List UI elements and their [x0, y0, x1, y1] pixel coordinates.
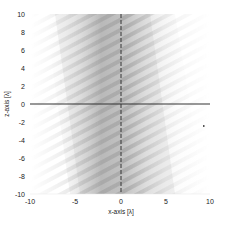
- y-tick: 10: [17, 11, 25, 18]
- x-tick: 10: [206, 198, 214, 205]
- marker-point: [203, 125, 205, 127]
- x-axis-label: x-axis [λ]: [108, 208, 134, 216]
- y-tick: 4: [21, 65, 25, 72]
- chart-figure: 10 8 6 4 2 0 -2 -4 -6 -8 -10 z-axis [λ] …: [0, 0, 226, 225]
- y-tick: -8: [19, 173, 25, 180]
- y-tick: 6: [21, 47, 25, 54]
- y-tick: -4: [19, 137, 25, 144]
- y-axis: 10 8 6 4 2 0 -2 -4 -6 -8 -10 z-axis [λ]: [3, 11, 25, 198]
- y-axis-label: z-axis [λ]: [3, 91, 11, 117]
- x-axis: -10 -5 0 5 10 x-axis [λ]: [25, 194, 214, 216]
- y-tick: -2: [19, 119, 25, 126]
- y-tick: -10: [15, 191, 25, 198]
- x-tick: 5: [164, 198, 168, 205]
- x-tick: -5: [72, 198, 78, 205]
- x-tick: 0: [119, 198, 123, 205]
- y-tick: -6: [19, 155, 25, 162]
- x-tick: -10: [25, 198, 35, 205]
- y-tick: 0: [21, 101, 25, 108]
- y-tick: 2: [21, 83, 25, 90]
- y-tick: 8: [21, 29, 25, 36]
